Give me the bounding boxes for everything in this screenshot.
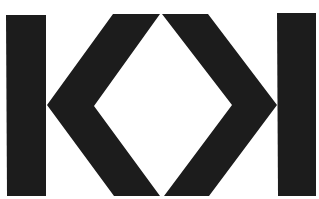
right-bar-shape — [277, 13, 316, 196]
left-bar-shape — [6, 15, 46, 196]
logo-mark — [0, 0, 319, 199]
logo-canvas: Black geometric logo: two vertical bars … — [0, 0, 319, 199]
